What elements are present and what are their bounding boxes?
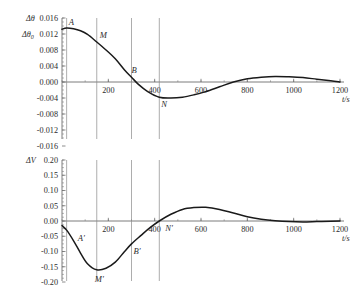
- point-label-N-prime: N′: [164, 223, 173, 233]
- panel-lower-y-tick-label: -0.15: [41, 263, 58, 272]
- upper-y-axis-initial-value-label: Δθ0: [21, 30, 34, 40]
- panel-lower-y-tick-label: 0.00: [44, 217, 58, 226]
- panel-upper-y-tick-label: -0.016: [37, 142, 58, 151]
- point-label-M-prime: M′: [94, 274, 104, 284]
- point-label-A: A: [68, 17, 75, 27]
- upper-y-axis-label: Δθ: [25, 14, 35, 23]
- lower-y-axis-label: ΔV: [25, 156, 37, 165]
- panel-lower-y-tick-label: 0.10: [44, 186, 58, 195]
- panel-lower-x-tick-label: 600: [195, 225, 207, 234]
- panel-lower-y-tick-label: 0.15: [44, 171, 58, 180]
- panel-lower-curve: [62, 207, 340, 270]
- panel-lower-x-tick-label: 1200: [332, 225, 348, 234]
- panel-lower-x-tick-label: 1000: [285, 225, 301, 234]
- panel-upper-x-tick-label: 1000: [285, 86, 301, 95]
- panel-lower-y-tick-label: -0.10: [41, 247, 58, 256]
- panel-upper-y-tick-label: -0.004: [37, 94, 58, 103]
- panel-lower-y-tick-label: -0.05: [41, 232, 58, 241]
- panel-lower-y-tick-label: -0.20: [41, 278, 58, 287]
- point-label-B: B: [132, 65, 138, 75]
- panel-upper-y-tick-label: 0.000: [40, 78, 58, 87]
- panel-upper-y-tick-label: -0.012: [37, 126, 58, 135]
- panel-lower-y-tick-label: 0.20: [44, 156, 58, 165]
- figure-container: 0.0160.0120.0080.0040.000-0.004-0.008-0.…: [0, 0, 356, 287]
- panel-upper-y-tick-label: -0.008: [37, 110, 58, 119]
- panel-upper-y-tick-label: 0.004: [40, 62, 58, 71]
- panel-upper-y-tick-label: 0.012: [40, 30, 58, 39]
- panel-lower-x-tick-label: 200: [102, 225, 114, 234]
- panel-lower-x-axis-label: t/s: [342, 234, 350, 243]
- panel-lower-y-tick-label: 0.05: [44, 202, 58, 211]
- panel-upper-x-axis-label: t/s: [342, 95, 350, 104]
- two-panel-response-plot: 0.0160.0120.0080.0040.000-0.004-0.008-0.…: [0, 0, 356, 287]
- panel-upper-y-tick-label: 0.016: [40, 14, 58, 23]
- panel-upper-y-tick-label: 0.008: [40, 46, 58, 55]
- point-label-N: N: [160, 99, 168, 109]
- point-label-M: M: [99, 30, 108, 40]
- panel-lower-x-tick-label: 800: [241, 225, 253, 234]
- panel-upper-x-tick-label: 1200: [332, 86, 348, 95]
- panel-upper-x-tick-label: 800: [241, 86, 253, 95]
- point-label-B-prime: B′: [134, 246, 141, 256]
- point-label-A-prime: A′: [77, 233, 85, 243]
- panel-upper-x-tick-label: 200: [102, 86, 114, 95]
